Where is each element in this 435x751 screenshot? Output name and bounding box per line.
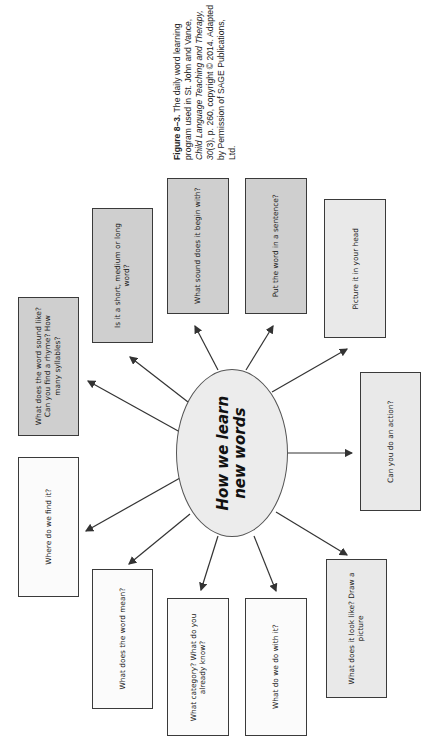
box-label: Is it a short, medium or long word? xyxy=(113,217,132,334)
box-action: Can you do an action? xyxy=(360,372,421,511)
box-label: What do we do with it? xyxy=(271,607,280,727)
figure-caption: Figure 8–3. The daily word learning prog… xyxy=(172,4,272,160)
box-label: What sound does it begin with? xyxy=(193,187,202,305)
center-topic-oval: How we learn new words xyxy=(176,369,288,537)
box-do-with-it: What do we do with it? xyxy=(245,598,307,736)
box-label: What does it look like? Draw a picture xyxy=(347,568,366,689)
arrow-to-meaning xyxy=(129,514,190,564)
box-label: What does the word mean? xyxy=(118,578,127,700)
center-topic-line-1: How we learn xyxy=(215,393,232,513)
diagram-canvas: How we learn new words What does the wor… xyxy=(0,0,435,751)
center-topic-line-2: new words xyxy=(232,393,249,513)
arrow-to-begin-sound xyxy=(195,326,218,370)
arrow-to-look-like xyxy=(276,512,347,555)
box-label: What does the word sound like? Can you f… xyxy=(34,306,62,427)
caption-text-2: (3), p. 260, copyright © 2014. Adapted b… xyxy=(205,5,237,160)
box-label: Can you do an action? xyxy=(386,381,395,502)
arrow-to-do-with-it xyxy=(254,536,276,591)
box-label: Picture it in your head xyxy=(350,208,359,329)
arrow-to-find-it xyxy=(86,478,180,531)
box-label: What category? What do you already know? xyxy=(189,607,208,727)
box-category: What category? What do you already know? xyxy=(167,598,229,736)
arrow-to-category xyxy=(201,536,218,590)
box-look-like: What does it look like? Draw a picture xyxy=(326,559,387,698)
arrow-to-in-sentence xyxy=(246,326,273,370)
arrow-to-picture-it xyxy=(272,349,347,392)
box-begin-sound: What sound does it begin with? xyxy=(167,178,229,314)
box-in-sentence: Put the word in a sentence? xyxy=(245,178,307,314)
box-picture-it: Picture it in your head xyxy=(324,199,386,338)
box-meaning: What does the word mean? xyxy=(92,569,153,709)
box-find-it: Where do we find it? xyxy=(18,457,79,597)
box-word-length: Is it a short, medium or long word? xyxy=(92,208,153,343)
box-label: Put the word in a sentence? xyxy=(271,187,280,305)
box-sound-like: What does the word sound like? Can you f… xyxy=(18,297,79,436)
arrow-to-word-length xyxy=(130,357,188,402)
box-label: Where do we find it? xyxy=(44,466,53,588)
arrow-to-sound-like xyxy=(88,381,180,432)
center-topic-label: How we learn new words xyxy=(215,393,250,513)
figure-label: Figure 8–3. xyxy=(172,115,182,160)
